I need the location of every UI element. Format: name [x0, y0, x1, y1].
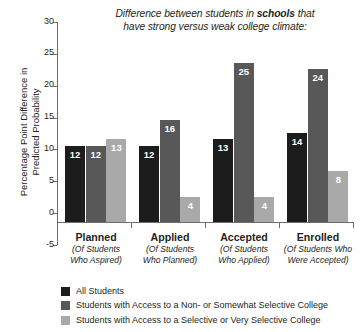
legend-item: All Students — [61, 284, 361, 299]
y-axis-tick-label: 10 — [44, 143, 54, 153]
chart-title-emphasis: schools — [257, 8, 295, 19]
chart-legend: All StudentsStudents with Access to a No… — [61, 284, 361, 328]
bar: 8 — [328, 171, 348, 222]
x-axis-tick-mark — [131, 223, 132, 228]
y-axis-tick-label: 30 — [44, 16, 54, 26]
bar: 13 — [106, 139, 126, 222]
bar-value-label: 13 — [213, 142, 233, 153]
legend-label: Students with Access to a Non- or Somewh… — [76, 300, 328, 311]
bar: 12 — [65, 146, 85, 222]
bar: 13 — [213, 139, 233, 222]
x-axis-tick-mark — [353, 223, 354, 228]
chart-title-line1-post: that — [295, 8, 315, 19]
x-axis-tick-mark — [205, 223, 206, 228]
bar-series-container: 121213121641325414248 — [57, 22, 354, 222]
legend-item: Students with Access to a Non- or Somewh… — [61, 299, 361, 314]
category-sublabel: Were Accepted) — [275, 255, 361, 266]
y-axis-label: Percentage Point Difference in Predicted… — [18, 32, 42, 232]
y-axis-tick-label: 15 — [44, 111, 54, 121]
bar-value-label: 12 — [65, 149, 85, 160]
bar-value-label: 4 — [180, 200, 200, 211]
x-axis-tick-mark — [57, 223, 58, 228]
bar-value-label: 13 — [106, 142, 126, 153]
category-label: Enrolled(Of Students WhoWere Accepted) — [275, 231, 361, 266]
y-axis-label-line1: Percentage Point Difference in — [18, 68, 29, 197]
bar: 14 — [287, 133, 307, 222]
bar-value-label: 12 — [139, 149, 159, 160]
bar: 4 — [180, 197, 200, 222]
bar: 12 — [139, 146, 159, 222]
category-labels: Planned(Of StudentsWho Aspired)Applied(O… — [57, 231, 356, 279]
bar: 25 — [234, 63, 254, 222]
legend-label: Students with Access to a Selective or V… — [76, 315, 321, 326]
bar-value-label: 25 — [234, 66, 254, 77]
legend-swatch-icon — [61, 287, 70, 296]
legend-swatch-icon — [61, 316, 70, 325]
x-axis-tick-mark — [279, 223, 280, 228]
chart-figure: Difference between students in schools t… — [0, 0, 362, 332]
y-axis-tick-label: 0 — [49, 207, 54, 217]
category-name: Enrolled — [275, 231, 361, 244]
bar-value-label: 8 — [328, 174, 348, 185]
bar-value-label: 14 — [287, 136, 307, 147]
bar-value-label: 12 — [86, 149, 106, 160]
bar-value-label: 16 — [160, 123, 180, 134]
bar: 24 — [308, 69, 328, 222]
bar: 16 — [160, 120, 180, 222]
bar: 4 — [254, 197, 274, 222]
y-axis-tick-label: 5 — [49, 175, 54, 185]
legend-label: All Students — [76, 286, 124, 297]
bar-value-label: 4 — [254, 200, 274, 211]
bar: 12 — [86, 146, 106, 222]
legend-item: Students with Access to a Selective or V… — [61, 313, 361, 328]
y-axis-label-line2: Predicted Probability — [30, 88, 41, 175]
y-axis-tick-label: 25 — [44, 47, 54, 57]
y-axis-tick-label: 20 — [44, 79, 54, 89]
category-sublabel: (Of Students Who — [275, 244, 361, 255]
legend-swatch-icon — [61, 301, 70, 310]
bar-value-label: 24 — [308, 72, 328, 83]
chart-title-line1-pre: Difference between students in — [116, 8, 257, 19]
